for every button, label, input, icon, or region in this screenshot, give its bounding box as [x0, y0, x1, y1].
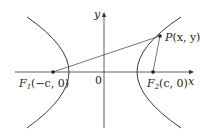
- focus-f2-point: [151, 70, 155, 74]
- hyperbola-left-branch: [27, 17, 69, 128]
- origin-label: 0: [95, 74, 102, 87]
- x-axis-label: x: [188, 75, 195, 88]
- segment-f2-p: [153, 36, 160, 72]
- hyperbola-diagram: y x 0 F1(−c, 0) F2(c, 0) P(x, y): [0, 0, 209, 139]
- svg-text:F1(−c, 0): F1(−c, 0): [18, 77, 69, 91]
- p-label: P(x, y): [164, 31, 200, 44]
- segment-f1-p: [53, 36, 160, 72]
- f2-label: F2(c, 0): [146, 77, 188, 91]
- point-p: [158, 34, 162, 38]
- svg-text:F2(c, 0): F2(c, 0): [146, 77, 188, 91]
- y-axis-label: y: [93, 8, 101, 21]
- f1-label: F1(−c, 0): [18, 77, 69, 91]
- svg-text:P(x, y): P(x, y): [164, 31, 200, 44]
- focus-f1-point: [51, 70, 55, 74]
